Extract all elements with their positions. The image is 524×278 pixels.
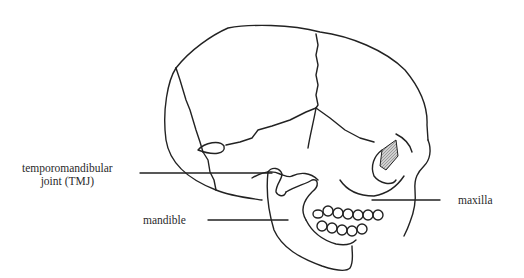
mandible-outline [267, 172, 352, 270]
skull-diagram: temporomandibular joint (TMJ) mandible m… [0, 0, 524, 278]
lower-teeth [317, 221, 367, 236]
label-maxilla: maxilla [458, 194, 493, 207]
label-tmj-line2: joint (TMJ) [22, 175, 113, 188]
label-tmj: temporomandibular joint (TMJ) [22, 162, 113, 188]
cranium-outline [176, 25, 428, 140]
upper-teeth [313, 206, 383, 220]
skull-drawing [0, 0, 524, 278]
coronal-suture [316, 34, 318, 108]
lambdoid-suture [176, 68, 203, 152]
label-mandible: mandible [143, 214, 186, 227]
label-tmj-line1: temporomandibular [22, 162, 113, 175]
shaded-region [380, 140, 398, 170]
